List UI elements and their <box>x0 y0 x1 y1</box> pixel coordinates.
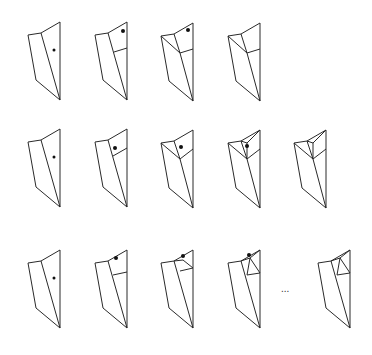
marker-dot <box>121 29 125 33</box>
fold-line <box>241 261 260 328</box>
fold-line <box>180 268 193 271</box>
fold-line <box>180 53 193 101</box>
fold-line <box>337 258 340 275</box>
panel-2-4 <box>228 130 260 208</box>
polygon-outline <box>161 130 193 208</box>
panel-2-2 <box>95 129 127 207</box>
marker-dot <box>114 256 118 260</box>
panel-3-4 <box>228 250 260 328</box>
polygon-outline <box>95 22 127 100</box>
fold-line <box>247 159 260 208</box>
panel-1-3 <box>161 23 193 101</box>
polygon-outline <box>228 23 260 101</box>
polygon-outline <box>228 250 260 328</box>
fold-line <box>250 250 260 258</box>
polygon-outline <box>95 250 127 328</box>
polygon-outline <box>161 250 193 328</box>
panel-2-3 <box>161 130 193 208</box>
fold-line <box>247 273 260 275</box>
fold-line <box>41 33 60 100</box>
fold-line <box>337 273 350 275</box>
fold-line <box>250 258 260 273</box>
fold-line <box>331 261 350 328</box>
panel-3-5 <box>318 250 350 328</box>
fold-line <box>41 140 60 207</box>
polygon-outline <box>95 129 127 207</box>
fold-line <box>247 53 260 101</box>
polygon-outline <box>318 250 350 328</box>
panel-3-2 <box>95 250 127 328</box>
panel-1-4 <box>228 23 260 101</box>
fold-line <box>340 250 350 258</box>
marker-dot <box>245 144 249 148</box>
panel-2-1 <box>28 129 60 207</box>
panel-2-5 <box>294 130 326 208</box>
polygon-outline <box>28 129 60 207</box>
polygon-outline <box>161 23 193 101</box>
marker-dot <box>179 145 183 149</box>
panel-1-2 <box>95 22 127 100</box>
marker-dot <box>53 156 56 159</box>
panel-3-3 <box>161 250 193 328</box>
row-2 <box>28 129 326 208</box>
fold-line <box>313 159 326 208</box>
fold-line <box>108 261 127 328</box>
fold-line <box>180 49 193 53</box>
fold-line <box>247 49 260 53</box>
fold-line <box>183 260 193 268</box>
fold-line <box>340 258 350 273</box>
fold-line <box>41 261 60 328</box>
folding-stages-diagram <box>0 0 372 355</box>
marker-dot <box>53 277 56 280</box>
marker-dot <box>53 49 56 52</box>
row-1 <box>28 22 260 101</box>
fold-line <box>108 33 127 100</box>
polygon-outline <box>28 22 60 100</box>
fold-line <box>313 149 326 159</box>
fold-line <box>247 149 260 159</box>
marker-dot <box>186 28 190 32</box>
fold-line <box>180 159 193 208</box>
panel-1-1 <box>28 22 60 100</box>
panel-3-1 <box>28 250 60 328</box>
marker-dot <box>181 254 185 258</box>
ellipsis-continuation: ... <box>281 283 289 294</box>
marker-dot <box>113 146 117 150</box>
marker-dot <box>247 253 251 257</box>
row-3 <box>28 250 350 328</box>
polygon-outline <box>28 250 60 328</box>
fold-line <box>114 48 127 52</box>
fold-line <box>180 149 193 159</box>
fold-line <box>247 258 250 275</box>
fold-line <box>113 272 127 275</box>
fold-line <box>174 261 193 328</box>
